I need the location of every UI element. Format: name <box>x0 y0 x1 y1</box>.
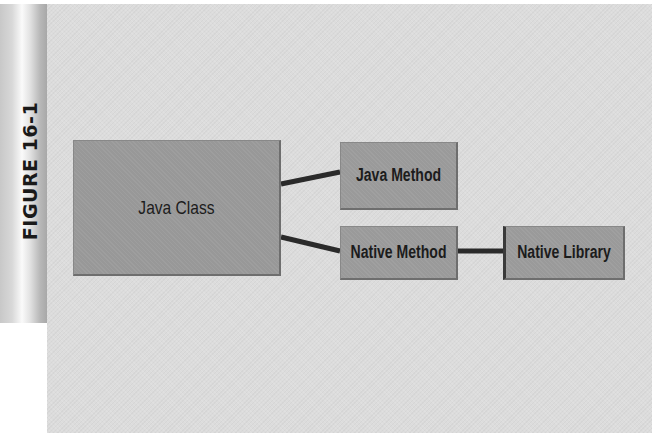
node-native-library: Native Library <box>503 226 625 280</box>
node-label: Native Method <box>351 242 447 263</box>
figure-side-bar: FIGURE 16-1 <box>0 4 47 323</box>
node-label: Native Library <box>518 242 612 263</box>
figure-label: FIGURE 16-1 <box>19 102 41 240</box>
node-label: Java Method <box>356 165 441 186</box>
node-label: Java Class <box>138 197 214 219</box>
node-java-class: Java Class <box>73 140 281 276</box>
node-java-method: Java Method <box>340 142 458 210</box>
node-native-method: Native Method <box>340 226 458 280</box>
